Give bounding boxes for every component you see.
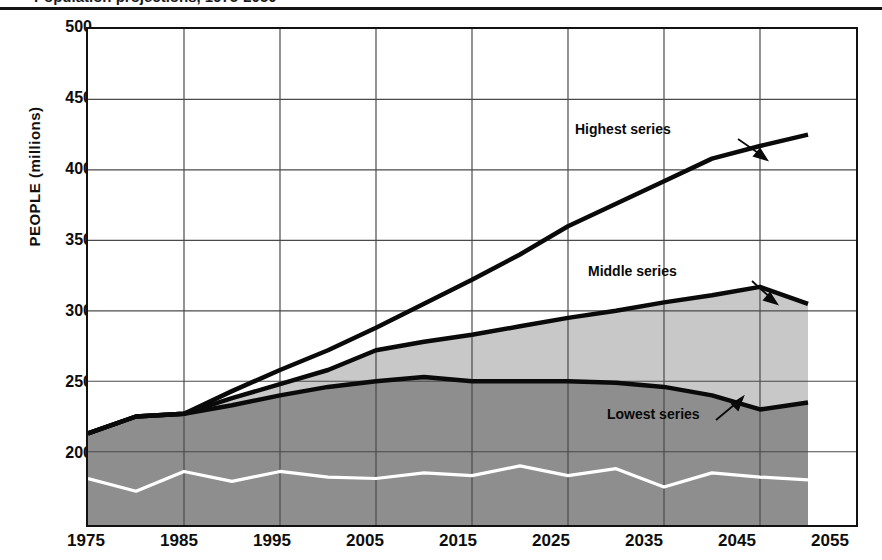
- x-tick-2045: 2045: [697, 531, 777, 551]
- x-tick-2005: 2005: [325, 531, 405, 551]
- y-tick-300: 300: [22, 302, 92, 320]
- chart-title: Population projections, 1975-2050: [0, 0, 882, 6]
- x-tick-2025: 2025: [511, 531, 591, 551]
- plot-area: Highest series Middle series Lowest seri…: [86, 27, 858, 527]
- x-tick-2035: 2035: [604, 531, 684, 551]
- x-tick-2055: 2055: [790, 531, 870, 551]
- title-divider: [0, 7, 882, 10]
- y-tick-350: 350: [22, 231, 92, 249]
- y-tick-450: 450: [22, 89, 92, 107]
- chart-page: Population projections, 1975-2050 PEOPLE…: [0, 0, 882, 560]
- x-tick-2015: 2015: [418, 531, 498, 551]
- chart-svg: [88, 29, 856, 525]
- y-tick-500: 500: [22, 18, 92, 36]
- x-tick-1975: 1975: [46, 531, 126, 551]
- annotation-lowest: Lowest series: [607, 406, 700, 422]
- y-tick-400: 400: [22, 160, 92, 178]
- band-lowest: [88, 377, 808, 525]
- x-tick-1985: 1985: [139, 531, 219, 551]
- y-tick-250: 250: [22, 373, 92, 391]
- y-tick-200: 200: [22, 444, 92, 462]
- annotation-middle: Middle series: [588, 263, 677, 279]
- x-tick-1995: 1995: [232, 531, 312, 551]
- annotation-highest: Highest series: [575, 121, 671, 137]
